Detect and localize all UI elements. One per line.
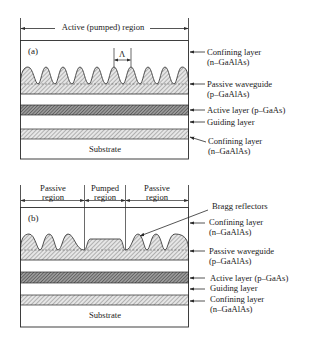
lower-confining-a: [21, 129, 189, 139]
passive-waveguide-label-a: Passive waveguide (p–GaAlAs): [207, 80, 272, 99]
guiding-layer-label-b: Guiding layer: [210, 284, 258, 294]
panel-a: [21, 18, 207, 159]
grating-b: [21, 234, 189, 260]
active-region-dimension-label: Active (pumped) region: [56, 23, 150, 33]
confining-layer-top-label-b: Confining layer (n–GaAlAs): [209, 218, 263, 237]
region-label-passive-right: Passive region: [126, 184, 188, 202]
active-layer-b: [21, 272, 189, 283]
region-label-passive-left: Passive region: [22, 184, 84, 202]
active-layer-label-a: Active layer (p–GaAs): [207, 106, 285, 116]
panel-b-tag: (b): [28, 214, 39, 224]
passive-waveguide-label-b: Passive waveguide (p–GaAlAs): [209, 247, 274, 266]
confining-layer-bottom-label-a: Confining layer (n–GaAlAs): [208, 137, 262, 156]
panel-b: [21, 185, 209, 327]
substrate-label-a: Substrate: [60, 145, 150, 155]
confining-layer-top-label-a: Confining layer (n–GaAlAs): [207, 48, 261, 67]
panel-a-tag: (a): [28, 47, 38, 57]
bragg-reflectors-callout: Bragg reflectors: [212, 202, 268, 212]
substrate-label-b: Substrate: [60, 311, 150, 321]
grating-a: [21, 67, 189, 94]
active-layer-a: [21, 105, 189, 115]
confining-layer-bottom-label-b: Confining layer (n–GaAlAs): [210, 295, 264, 314]
region-label-pumped: Pumped region: [85, 184, 125, 202]
lower-confining-b: [21, 295, 189, 305]
grating-period-label: Λ: [119, 50, 125, 60]
guiding-layer-label-a: Guiding layer: [207, 118, 255, 128]
dfb-laser-diagram: [0, 0, 314, 342]
